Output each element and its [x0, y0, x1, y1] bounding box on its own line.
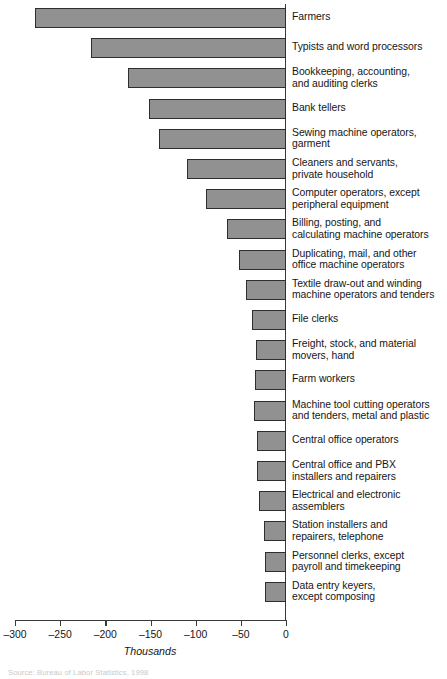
x-axis-title: Thousands: [0, 645, 300, 657]
x-axis-tick: [15, 620, 16, 626]
bar-row: Farm workers: [0, 368, 447, 398]
bar-category-label: Textile draw-out and winding machine ope…: [292, 278, 444, 301]
x-axis-tick: [60, 620, 61, 626]
x-axis-tick-label: –250: [35, 629, 85, 641]
bar-category-label: Typists and word processors: [292, 41, 444, 53]
bar-category-label: Station installers and repairers, teleph…: [292, 519, 444, 542]
bar: [149, 99, 286, 119]
bar: [265, 582, 286, 602]
x-axis-tick-label: –150: [126, 629, 176, 641]
bar-row: Bank tellers: [0, 97, 447, 127]
bar-category-label: Bank tellers: [292, 102, 444, 114]
bar-row: Central office operators: [0, 429, 447, 459]
bar: [254, 401, 286, 421]
x-axis-tick-label: –50: [216, 629, 266, 641]
bar: [35, 8, 286, 28]
bar-row: Personnel clerks, except payroll and tim…: [0, 550, 447, 580]
bar: [259, 491, 286, 511]
x-axis-tick-label: –300: [0, 629, 40, 641]
bar-row: Electrical and electronic assemblers: [0, 489, 447, 519]
bar-row: Computer operators, except peripheral eq…: [0, 187, 447, 217]
bar-category-label: Billing, posting, and calculating machin…: [292, 217, 444, 240]
bar-row: Central office and PBX installers and re…: [0, 459, 447, 489]
bar: [239, 250, 286, 270]
bar: [187, 159, 286, 179]
x-axis-tick: [286, 620, 287, 626]
bar-category-label: Duplicating, mail, and other office mach…: [292, 248, 444, 271]
bar-row: Textile draw-out and winding machine ope…: [0, 278, 447, 308]
bar-category-label: File clerks: [292, 313, 444, 325]
bar: [206, 189, 286, 209]
x-axis-tick-label: –100: [171, 629, 221, 641]
bar-row: Billing, posting, and calculating machin…: [0, 217, 447, 247]
bar-row: Duplicating, mail, and other office mach…: [0, 248, 447, 278]
bar: [257, 461, 286, 481]
bar-row: Freight, stock, and material movers, han…: [0, 338, 447, 368]
plot-area: FarmersTypists and word processorsBookke…: [0, 0, 447, 620]
bar-category-label: Sewing machine operators, garment: [292, 127, 444, 150]
x-axis-tick: [196, 620, 197, 626]
bar-category-label: Farm workers: [292, 373, 444, 385]
bar-row: Bookkeeping, accounting, and auditing cl…: [0, 66, 447, 96]
bar-row: Sewing machine operators, garment: [0, 127, 447, 157]
x-axis-tick: [241, 620, 242, 626]
bar-category-label: Data entry keyers, except composing: [292, 580, 444, 603]
bar-category-label: Cleaners and servants, private household: [292, 157, 444, 180]
bar: [159, 129, 286, 149]
bar-row: File clerks: [0, 308, 447, 338]
x-axis-tick: [105, 620, 106, 626]
bar-row: Typists and word processors: [0, 36, 447, 66]
bar-row: Cleaners and servants, private household: [0, 157, 447, 187]
bar: [264, 521, 286, 541]
bar-category-label: Central office and PBX installers and re…: [292, 459, 444, 482]
bar-category-label: Electrical and electronic assemblers: [292, 489, 444, 512]
bar-category-label: Central office operators: [292, 434, 444, 446]
declining-occupations-bar-chart: FarmersTypists and word processorsBookke…: [0, 0, 447, 679]
bar: [128, 68, 286, 88]
bar: [257, 431, 286, 451]
x-axis-tick-label: –200: [80, 629, 130, 641]
bar: [246, 280, 286, 300]
bar: [255, 370, 286, 390]
bar-category-label: Freight, stock, and material movers, han…: [292, 338, 444, 361]
bar: [91, 38, 286, 58]
bar: [265, 552, 286, 572]
bar-category-label: Computer operators, except peripheral eq…: [292, 187, 444, 210]
bar-row: Station installers and repairers, teleph…: [0, 519, 447, 549]
bar: [252, 310, 286, 330]
source-note: Source: Bureau of Labor Statistics, 1998: [8, 668, 148, 677]
bar-row: Data entry keyers, except composing: [0, 580, 447, 610]
x-axis-tick-label: 0: [261, 629, 311, 641]
bar: [256, 340, 286, 360]
bar-category-label: Machine tool cutting operators and tende…: [292, 399, 444, 422]
bar-category-label: Personnel clerks, except payroll and tim…: [292, 550, 444, 573]
bar-category-label: Bookkeeping, accounting, and auditing cl…: [292, 66, 444, 89]
bar-category-label: Farmers: [292, 11, 444, 23]
bar: [227, 219, 286, 239]
x-axis-tick: [151, 620, 152, 626]
bar-row: Machine tool cutting operators and tende…: [0, 399, 447, 429]
bar-row: Farmers: [0, 6, 447, 36]
